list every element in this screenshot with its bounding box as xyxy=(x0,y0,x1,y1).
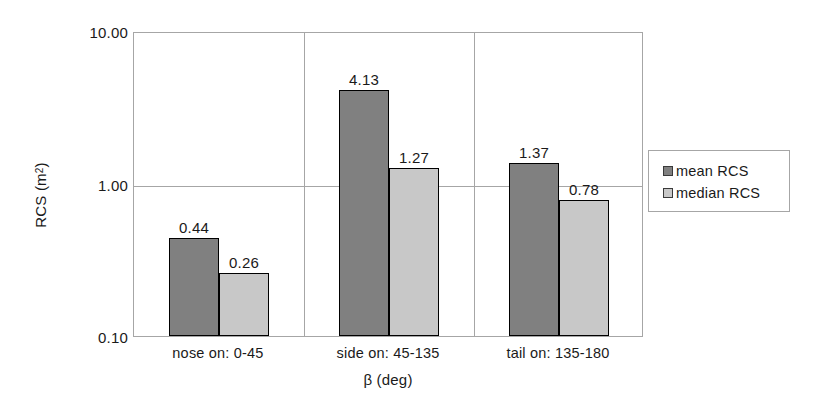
bar-value-label: 0.26 xyxy=(209,255,279,270)
rcs-bar-chart: RCS (m2) 10.001.000.10 0.440.264.131.271… xyxy=(0,0,822,413)
bar xyxy=(389,168,439,336)
bar-value-label: 0.78 xyxy=(549,182,619,197)
legend-swatch xyxy=(663,166,673,176)
bar xyxy=(169,238,219,336)
gridline-vertical xyxy=(304,33,305,336)
y-axis-tick-labels: 10.001.000.10 xyxy=(62,0,128,413)
bar xyxy=(339,90,389,336)
gridline-vertical xyxy=(474,33,475,336)
legend-label: mean RCS xyxy=(676,163,749,179)
legend-item: mean RCS xyxy=(663,160,789,182)
bar xyxy=(559,200,609,336)
y-axis-tick-label: 0.10 xyxy=(66,330,128,345)
x-axis-category-label: tail on: 135-180 xyxy=(473,345,643,361)
y-axis-title-text: RCS (m xyxy=(32,173,49,228)
bar-value-label: 1.37 xyxy=(499,145,569,160)
y-axis-tick-label: 1.00 xyxy=(66,178,128,193)
x-axis-category-label: side on: 45-135 xyxy=(303,345,473,361)
legend-item: median RCS xyxy=(663,182,789,204)
legend-swatch xyxy=(663,188,673,198)
y-axis-title-close: ) xyxy=(32,162,49,167)
bar-value-label: 1.27 xyxy=(379,150,449,165)
bar xyxy=(219,273,269,336)
legend: mean RCSmedian RCS xyxy=(648,150,790,212)
bar-value-label: 4.13 xyxy=(329,72,399,87)
y-axis-tick-label: 10.00 xyxy=(66,25,128,40)
legend-label: median RCS xyxy=(676,185,760,201)
x-axis-title: β (deg) xyxy=(133,371,643,388)
bar-value-label: 0.44 xyxy=(159,220,229,235)
x-axis-category-label: nose on: 0-45 xyxy=(133,345,303,361)
plot-area: 0.440.264.131.271.370.78 xyxy=(133,32,643,337)
